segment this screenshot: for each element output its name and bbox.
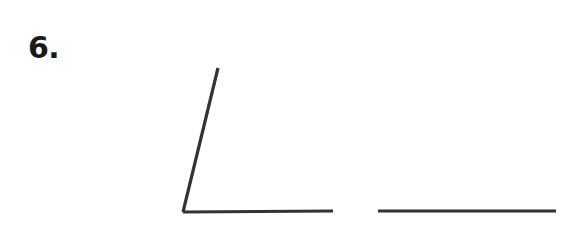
angle-ray-horizontal: [183, 211, 333, 212]
angle-ray-slanted: [183, 68, 218, 212]
worksheet-page: 6.: [0, 0, 571, 241]
geometry-figure: [0, 0, 571, 241]
